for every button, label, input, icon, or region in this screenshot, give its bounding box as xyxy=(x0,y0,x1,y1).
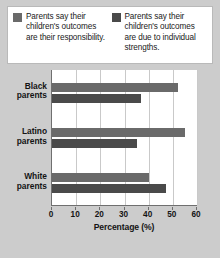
category-label-line: Black xyxy=(25,81,47,91)
x-axis-title: Percentage (%) xyxy=(51,222,197,232)
x-axis-tick-label: 50 xyxy=(167,210,176,219)
category-label-line: parents xyxy=(17,136,47,146)
legend-item-individual-strengths: Parents say their children's outcomes ar… xyxy=(112,12,209,58)
bar xyxy=(52,173,149,182)
category-label: Whiteparents xyxy=(5,172,47,191)
legend-item-label: Parents say their children's outcomes ar… xyxy=(26,12,110,43)
x-axis-tick-label: 60 xyxy=(191,210,200,219)
legend-item-responsibility: Parents say their children's outcomes ar… xyxy=(13,12,110,58)
x-axis-tick-label: 30 xyxy=(119,210,128,219)
bar xyxy=(52,128,185,137)
x-axis-tick-label: 10 xyxy=(71,210,80,219)
legend-item-label: Parents say their children's outcomes ar… xyxy=(125,12,209,54)
category-label-line: parents xyxy=(17,90,47,100)
bar xyxy=(52,139,137,148)
bar xyxy=(52,184,166,193)
gridline xyxy=(197,70,198,205)
x-axis-tick-label: 40 xyxy=(143,210,152,219)
bar xyxy=(52,94,141,103)
category-label-line: Latino xyxy=(22,126,47,136)
category-label: Blackparents xyxy=(5,82,47,101)
bar xyxy=(52,83,178,92)
plot-wrapper: BlackparentsLatinoparentsWhiteparents 01… xyxy=(7,70,213,220)
category-label: Latinoparents xyxy=(5,127,47,146)
chart-figure: Parents say their children's outcomes ar… xyxy=(0,0,220,258)
plot-area xyxy=(51,70,197,206)
category-label-line: parents xyxy=(17,181,47,191)
category-axis: BlackparentsLatinoparentsWhiteparents xyxy=(7,70,49,206)
category-label-line: White xyxy=(24,171,47,181)
color-swatch-icon xyxy=(13,13,22,22)
x-axis: 0102030405060 xyxy=(51,207,197,220)
x-axis-tick-label: 0 xyxy=(49,210,54,219)
chart-legend: Parents say their children's outcomes ar… xyxy=(7,6,213,64)
color-swatch-icon xyxy=(112,13,121,22)
x-axis-tick-label: 20 xyxy=(95,210,104,219)
